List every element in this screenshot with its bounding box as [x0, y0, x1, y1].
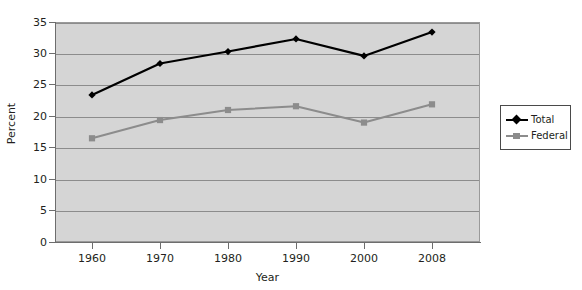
y-tick-mark	[49, 179, 55, 180]
legend-item-federal: Federal	[506, 129, 568, 143]
x-tick-label: 1970	[130, 253, 190, 264]
legend: Total Federal	[500, 105, 571, 150]
x-tick-label: 1960	[62, 253, 122, 264]
x-tick-label: 1980	[198, 253, 258, 264]
plot-area	[55, 22, 480, 242]
y-tick-mark	[49, 53, 55, 54]
y-axis-title: Percent	[6, 89, 17, 159]
legend-swatch-total-icon	[506, 114, 528, 126]
gridline	[56, 148, 479, 149]
gridline	[56, 54, 479, 55]
gridline	[56, 211, 479, 212]
y-tick-mark	[49, 242, 55, 243]
legend-label: Federal	[531, 131, 568, 141]
y-tick-label: 10	[3, 174, 47, 185]
y-tick-mark	[49, 147, 55, 148]
x-tick-mark	[160, 243, 161, 249]
x-tick-mark	[364, 243, 365, 249]
x-tick-label: 1990	[266, 253, 326, 264]
legend-swatch-federal-icon	[506, 130, 528, 142]
x-tick-label: 2000	[334, 253, 394, 264]
gridline	[56, 117, 479, 118]
gridline	[56, 23, 479, 24]
y-axis-line	[55, 22, 56, 243]
y-tick-label: 35	[3, 17, 47, 28]
legend-item-total: Total	[506, 113, 554, 127]
x-tick-mark	[432, 243, 433, 249]
y-tick-mark	[49, 210, 55, 211]
y-tick-mark	[49, 84, 55, 85]
legend-label: Total	[531, 115, 554, 125]
y-tick-label: 5	[3, 205, 47, 216]
x-tick-mark	[92, 243, 93, 249]
y-tick-mark	[49, 22, 55, 23]
gridline	[56, 85, 479, 86]
y-tick-mark	[49, 116, 55, 117]
x-axis-title: Year	[55, 272, 480, 283]
x-tick-label: 2008	[402, 253, 462, 264]
y-tick-label: 30	[3, 48, 47, 59]
y-tick-label: 0	[3, 237, 47, 248]
x-axis-line	[55, 242, 481, 243]
x-tick-mark	[296, 243, 297, 249]
line-chart: 35 30 25 20 15 10 5 0 1960 1970 1980 199…	[0, 0, 582, 290]
gridline	[56, 180, 479, 181]
x-tick-mark	[228, 243, 229, 249]
